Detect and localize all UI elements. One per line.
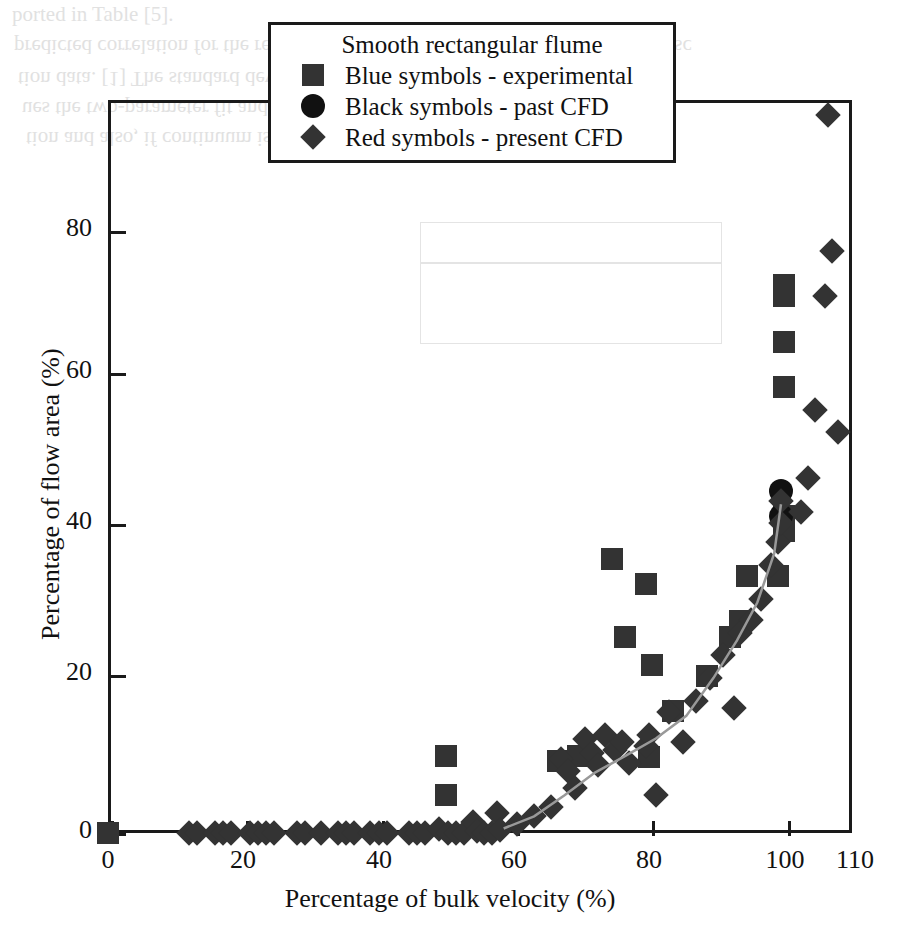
x-ticklabel-20: 20 bbox=[230, 845, 256, 875]
legend-item-experimental: Blue symbols - experimental bbox=[281, 60, 663, 90]
x-tick-100 bbox=[788, 821, 791, 836]
x-ticklabel-0: 0 bbox=[102, 845, 115, 875]
x-ticklabel-40: 40 bbox=[366, 845, 392, 875]
y-ticklabel-80: 80 bbox=[44, 213, 92, 243]
y-ticklabel-20: 20 bbox=[44, 657, 92, 687]
legend-item-past-cfd: Black symbols - past CFD bbox=[281, 91, 663, 121]
legend-title: Smooth rectangular flume bbox=[281, 31, 663, 58]
circle-marker-icon bbox=[281, 91, 345, 121]
diamond-marker-icon bbox=[281, 122, 345, 152]
plot-frame bbox=[108, 100, 852, 833]
scatter-chart-figure: 0 20 40 60 80 0 20 40 60 80 100 110 Perc… bbox=[0, 0, 900, 927]
x-ticklabel-100: 100 bbox=[766, 845, 805, 875]
x-ticklabel-110: 110 bbox=[836, 845, 874, 875]
legend-item-present-cfd: Red symbols - present CFD bbox=[281, 122, 663, 152]
chart-legend: Smooth rectangular flume Blue symbols - … bbox=[268, 22, 676, 163]
legend-item-label: Blue symbols - experimental bbox=[345, 62, 633, 89]
y-tick-80 bbox=[111, 231, 126, 234]
legend-item-label: Black symbols - past CFD bbox=[345, 93, 609, 120]
x-tick-60 bbox=[517, 821, 520, 836]
x-tick-0 bbox=[111, 821, 114, 836]
x-axis-title: Percentage of bulk velocity (%) bbox=[0, 884, 900, 914]
x-ticklabel-80: 80 bbox=[636, 845, 662, 875]
legend-item-label: Red symbols - present CFD bbox=[345, 124, 623, 151]
y-tick-60 bbox=[111, 373, 126, 376]
y-tick-40 bbox=[111, 524, 126, 527]
x-tick-20 bbox=[246, 821, 249, 836]
x-tick-40 bbox=[382, 821, 385, 836]
x-ticklabel-60: 60 bbox=[501, 845, 527, 875]
y-ticklabel-0: 0 bbox=[60, 815, 92, 845]
x-tick-80 bbox=[652, 821, 655, 836]
y-axis-title: Percentage of flow area (%) bbox=[36, 348, 66, 640]
square-marker-icon bbox=[281, 60, 345, 90]
y-tick-20 bbox=[111, 675, 126, 678]
